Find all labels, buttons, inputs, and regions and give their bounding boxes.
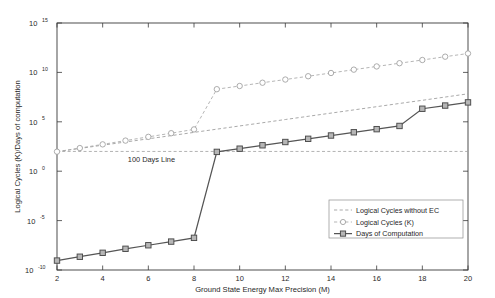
data-point-marker [374,126,379,131]
data-point-marker [260,143,265,148]
y-axis-title: Logical Cycles (K)/Days of computation [13,80,22,213]
data-point-marker [146,243,151,248]
data-point-marker [214,149,219,154]
data-point-marker [283,77,288,82]
data-point-marker [54,149,59,154]
data-point-marker [283,139,288,144]
data-point-marker [237,146,242,151]
legend-swatch-circle-marker [340,219,345,224]
data-point-marker [237,83,242,88]
x-tick-label: 4 [101,274,105,283]
y-tick-label-mantissa: 10 [25,266,33,275]
x-tick-label: 12 [281,274,289,283]
data-point-marker [100,250,105,255]
y-tick-label-mantissa: 10 [27,217,35,226]
y-tick-label-mantissa: 10 [29,19,37,28]
y-tick-label-exponent: -10 [38,264,46,270]
data-point-marker [442,54,447,59]
y-tick-label-exponent: 0 [42,165,45,171]
y-tick-label-exponent: 10 [42,66,48,72]
legend-swatch-square-marker [340,231,345,236]
y-tick-label-mantissa: 10 [29,68,37,77]
data-point-marker [420,57,425,62]
chart-canvas: 10 15 10 10 10 5 10 0 [0,0,495,298]
figure-container: 10 15 10 10 10 5 10 0 [0,0,495,298]
legend-label: Logical Cycles (K) [356,218,414,227]
data-point-marker [191,127,196,132]
annotation-100-days-line: 100 Days Line [128,155,175,164]
x-tick-label: 20 [464,274,472,283]
x-tick-label: 8 [192,274,196,283]
data-point-marker [77,145,82,150]
y-tick-label-mantissa: 10 [29,118,37,127]
data-point-marker [77,254,82,259]
data-point-marker [100,142,105,147]
legend-label: Days of Computation [356,229,423,238]
data-point-marker [397,123,402,128]
y-tick-label-mantissa: 10 [29,167,37,176]
data-point-marker [168,131,173,136]
legend[interactable]: Logical Cycles without EC Logical Cycles… [329,200,463,238]
x-tick-label: 16 [372,274,380,283]
x-axis-title: Ground State Energy Max Precision (M) [195,285,330,294]
data-point-marker [168,239,173,244]
data-point-marker [305,74,310,79]
data-point-marker [351,67,356,72]
y-tick-label-exponent: 15 [42,17,48,23]
data-point-marker [214,86,219,91]
legend-label: Logical Cycles without EC [356,206,439,215]
x-tick-label: 14 [327,274,335,283]
data-point-marker [123,246,128,251]
x-tick-label: 2 [55,274,59,283]
data-point-marker [260,80,265,85]
data-point-marker [442,103,447,108]
x-tick-label: 18 [418,274,426,283]
data-point-marker [305,136,310,141]
data-point-marker [191,235,196,240]
data-point-marker [328,133,333,138]
data-point-marker [374,64,379,69]
y-tick-label-exponent: 5 [42,115,45,121]
data-point-marker [54,258,59,263]
x-tick-label: 6 [146,274,150,283]
data-point-marker [465,100,470,105]
data-point-marker [420,106,425,111]
data-point-marker [397,61,402,66]
data-point-marker [123,138,128,143]
data-point-marker [351,130,356,135]
data-point-marker [328,70,333,75]
x-tick-label: 10 [235,274,243,283]
y-tick-label-exponent: -5 [40,214,45,220]
data-point-marker [465,51,470,56]
data-point-marker [146,134,151,139]
